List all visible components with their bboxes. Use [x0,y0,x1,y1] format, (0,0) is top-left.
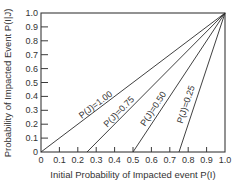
x-tick-label: 0.4 [108,155,121,165]
y-tick-label: 0.3 [25,105,38,115]
y-tick-label: 1.0 [25,8,38,18]
y-tick-label: 0.1 [25,133,38,143]
x-tick-label: 0 [38,155,43,165]
y-tick-label: 0.6 [25,64,38,74]
series-labels: P(J)=1.00P(J)=0.75P(J)=0.50P(J)=0.25 [77,84,197,129]
series-label: P(J)=0.25 [175,84,197,124]
series-lines [41,13,225,152]
x-tick-label: 0.7 [164,155,177,165]
y-tick-label: 0.2 [25,119,38,129]
series-line [87,13,225,152]
y-tick-label: 0.4 [25,91,38,101]
x-tick-label: 0.6 [145,155,158,165]
x-tick-label: 0.2 [72,155,85,165]
x-tick-label: 0.9 [200,155,213,165]
series-line [179,13,225,152]
y-tick-label: 0.5 [25,78,38,88]
y-axis-ticks: 00.10.20.30.40.50.60.70.80.91.0 [25,8,48,157]
x-tick-label: 0.3 [90,155,103,165]
x-tick-label: 0.5 [127,155,140,165]
y-tick-label: 0.7 [25,50,38,60]
chart: 00.10.20.30.40.50.60.70.80.91.0 00.10.20… [0,0,244,189]
y-tick-label: 0.8 [25,36,38,46]
y-tick-label: 0.9 [25,22,38,32]
x-axis-title: Initial Probability of Impacted event P(… [50,169,215,180]
series-line [133,13,225,152]
x-tick-label: 0.1 [53,155,66,165]
x-tick-label: 1.0 [219,155,232,165]
y-axis-title: Probability of Impacted Event P(I|J) [2,9,13,158]
y-tick-label: 0 [33,147,38,157]
series-line [41,13,225,152]
x-tick-label: 0.8 [182,155,195,165]
